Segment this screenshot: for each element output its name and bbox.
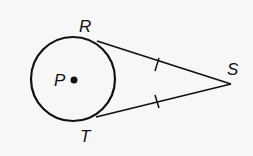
label-p: P: [54, 71, 66, 90]
label-r: R: [79, 17, 91, 36]
center-point-p: [71, 77, 78, 84]
diagram-svg: R T S P: [0, 0, 253, 156]
tangent-diagram: R T S P: [0, 0, 253, 156]
segment-rs: [97, 41, 231, 84]
label-t: T: [80, 127, 92, 146]
segment-ts: [96, 84, 231, 117]
label-s: S: [227, 60, 239, 79]
